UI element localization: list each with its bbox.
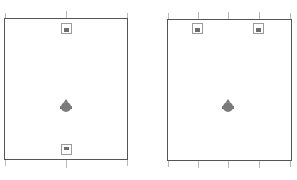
speaker-icon-rear-center — [61, 144, 72, 155]
tick-mark — [259, 160, 260, 168]
speaker-icon-front-center — [61, 23, 72, 34]
speaker-cone — [64, 28, 69, 32]
tick-mark — [168, 160, 169, 167]
tick-mark — [228, 160, 229, 168]
speaker-cone — [256, 28, 261, 32]
room-outline — [4, 18, 128, 160]
tick-mark — [127, 159, 128, 166]
speaker-cone — [64, 147, 69, 150]
listener-head-icon — [59, 99, 73, 113]
speaker-cone — [195, 28, 200, 32]
room-outline — [167, 19, 292, 161]
listener-head-icon — [221, 99, 235, 113]
speaker-icon-front-left — [192, 23, 203, 34]
tick-mark — [198, 160, 199, 168]
tick-mark — [66, 159, 67, 168]
speaker-icon-front-right — [253, 23, 264, 34]
tick-mark — [5, 159, 6, 166]
tick-mark — [290, 160, 291, 167]
